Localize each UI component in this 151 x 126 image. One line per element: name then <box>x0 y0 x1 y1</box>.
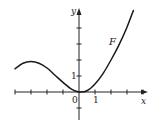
y-axis-label: y <box>70 6 77 16</box>
curve-label-F: F <box>108 36 117 47</box>
function-graph: y x 0 1 1 F <box>0 0 151 126</box>
x-axis-arrow-icon <box>141 90 148 95</box>
y-axis-arrow-icon <box>77 8 82 15</box>
x-tick-label-1: 1 <box>93 95 99 105</box>
y-tick-label-1: 1 <box>71 71 77 81</box>
origin-label: 0 <box>72 95 78 105</box>
x-axis-label: x <box>141 96 146 106</box>
